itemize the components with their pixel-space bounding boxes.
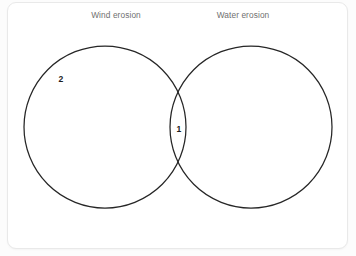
venn-circle-water[interactable] <box>170 46 332 208</box>
count-wind-erosion-only: 2 <box>59 74 64 84</box>
venn-diagram-screenshot: Wind erosion Water erosion 2 1 <box>0 0 356 256</box>
count-intersection: 1 <box>177 124 182 134</box>
venn-circle-wind[interactable] <box>24 46 186 208</box>
set-label-water-erosion: Water erosion <box>217 10 270 20</box>
set-label-wind-erosion: Wind erosion <box>91 10 141 20</box>
